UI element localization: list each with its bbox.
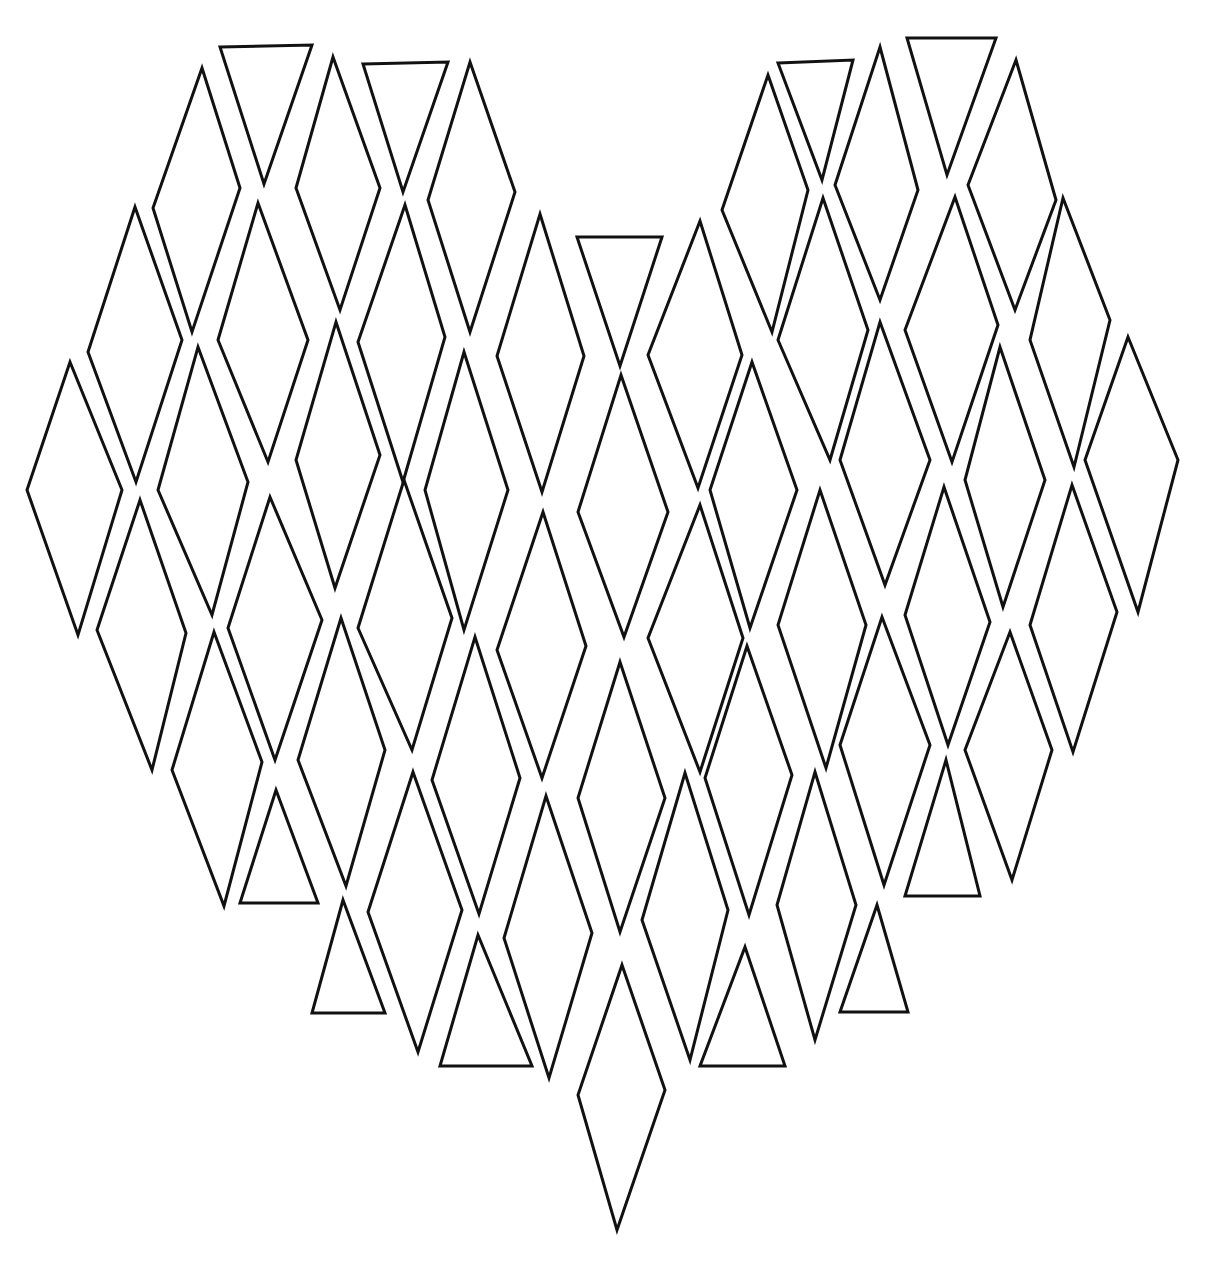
illustration-canvas (0, 0, 1218, 1268)
heart-diamond-pattern-illustration (0, 0, 1218, 1268)
